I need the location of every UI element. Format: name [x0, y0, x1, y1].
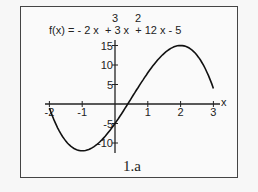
function-curve — [49, 46, 213, 151]
x-tick-label: -1 — [77, 106, 87, 118]
y-tick-label: 10 — [101, 59, 113, 71]
y-tick-label: 15 — [101, 40, 113, 52]
x-tick-label: 3 — [210, 106, 216, 118]
x-tick-label: 1 — [145, 106, 151, 118]
x-axis-label: x — [221, 96, 227, 108]
title-exponent-3: 3 — [112, 12, 118, 24]
axis-ticks: -2-112315105-5-10 — [45, 40, 217, 150]
figure-caption: 1.a — [123, 158, 141, 174]
chart-plot: -2-112315105-5-10 x f(x) = - 2 x + 3 x +… — [0, 0, 258, 192]
y-tick-label: 5 — [107, 79, 113, 91]
title-exponent-2: 2 — [135, 12, 141, 24]
chart-title: f(x) = - 2 x + 3 x + 12 x - 5 — [49, 24, 181, 36]
x-tick-label: 2 — [178, 106, 184, 118]
